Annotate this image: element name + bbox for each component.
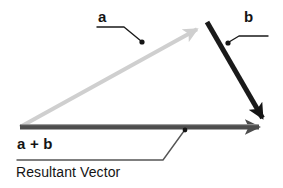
vector-b-label: b <box>244 9 253 24</box>
vector-resultant-arrow <box>20 125 259 127</box>
vector-diagram-canvas <box>0 0 283 188</box>
resultant-expression-label: a + b <box>17 136 53 151</box>
vector-a-label: a <box>98 9 107 24</box>
resultant-vector-caption: Resultant Vector <box>16 165 120 179</box>
vector-a-arrow <box>20 29 197 127</box>
leader-line-b <box>225 36 268 46</box>
leader-line-a <box>97 27 145 45</box>
vector-addition-figure: a b a + b Resultant Vector <box>0 0 283 188</box>
